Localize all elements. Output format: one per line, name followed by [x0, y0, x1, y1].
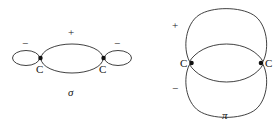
sigma-right-minus-sign: − — [114, 38, 120, 49]
pi-top-lobe — [186, 9, 267, 62]
pi-bottom-minus-sign: − — [172, 83, 178, 94]
pi-left-atom-dot — [189, 61, 194, 66]
pi-orbital-group — [186, 9, 267, 118]
pi-left-atom-label: C — [180, 58, 187, 69]
orbital-figure: − + − C C σ + − C C π — [0, 0, 280, 124]
orbital-artwork — [0, 0, 280, 124]
pi-right-atom-label: C — [265, 58, 272, 69]
sigma-center-plus-sign: + — [68, 27, 74, 38]
sigma-right-small-lobe — [105, 51, 132, 66]
sigma-center-large-lobe — [41, 44, 103, 73]
pi-right-atom-dot — [259, 61, 264, 66]
sigma-right-atom-label: C — [99, 64, 106, 75]
pi-top-plus-sign: + — [172, 20, 178, 31]
figure-canvas: − + − C C σ + − C C π — [0, 0, 280, 124]
pi-orbital-name: π — [222, 110, 228, 121]
sigma-left-minus-sign: − — [22, 38, 28, 49]
sigma-orbital-name: σ — [68, 87, 73, 98]
sigma-left-atom-label: C — [36, 64, 43, 75]
sigma-left-atom-dot — [38, 56, 42, 60]
sigma-right-atom-dot — [101, 56, 105, 60]
